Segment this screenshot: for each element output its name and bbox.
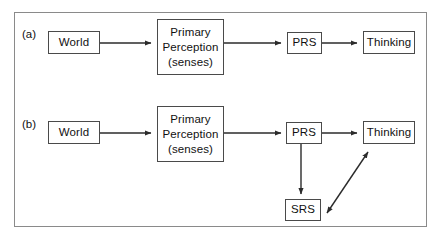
node-thinking-a: Thinking [363,31,415,54]
node-world-b: World [48,121,100,144]
figure-root: (a) World Primary Perception (senses) PR… [0,0,442,244]
node-primary-perception-a-line-0: Primary [170,25,210,40]
node-prs-a: PRS [287,32,322,54]
node-thinking-b: Thinking [363,121,415,144]
panel-label-b: (b) [22,118,36,131]
node-prs-b-line-0: PRS [292,126,316,140]
node-primary-perception-b: Primary Perception (senses) [157,106,224,162]
node-world-a: World [48,31,100,54]
node-thinking-b-line-0: Thinking [367,126,411,140]
node-world-a-line-0: World [59,36,89,50]
node-primary-perception-a: Primary Perception (senses) [157,19,224,75]
node-primary-perception-a-line-2: (senses) [168,55,213,70]
node-primary-perception-b-line-2: (senses) [168,142,213,157]
edge-srs-b-to-thinking-b-bidirectional [327,152,368,213]
node-primary-perception-b-line-1: Perception [163,127,219,142]
node-srs-b: SRS [285,199,321,221]
node-primary-perception-b-line-0: Primary [170,112,210,127]
node-prs-a-line-0: PRS [293,36,317,50]
node-srs-b-line-0: SRS [291,203,315,217]
node-thinking-a-line-0: Thinking [367,36,411,50]
node-primary-perception-a-line-1: Perception [163,40,219,55]
node-world-b-line-0: World [59,126,89,140]
panel-label-a: (a) [22,28,36,41]
node-prs-b: PRS [286,122,322,144]
